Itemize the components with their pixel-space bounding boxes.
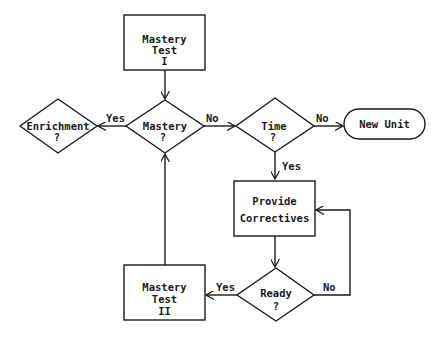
node-mastery-decision: Mastery ?	[126, 100, 204, 153]
node-text-line: ?	[273, 300, 279, 312]
node-text-line: Provide	[252, 195, 296, 207]
edge-label-mastery-yes: Yes	[106, 112, 125, 124]
node-mastery-test-1: Mastery Test I	[124, 15, 205, 70]
node-mastery-test-2: Mastery Test II	[124, 265, 205, 320]
edge-ready-no: No	[314, 210, 350, 295]
node-new-unit-terminal: New Unit	[344, 109, 425, 139]
node-text-line: ?	[160, 131, 166, 143]
edge-label-ready-yes: Yes	[216, 281, 235, 293]
flowchart-canvas: Yes No No Yes No Yes Mastery Test I Mast…	[0, 0, 441, 341]
edge-mastery-yes: Yes	[98, 112, 126, 126]
node-text-line: Correctives	[240, 212, 310, 224]
node-text-line: ?	[270, 131, 276, 143]
node-text-line: Ready	[260, 287, 292, 299]
node-provide-correctives: Provide Correctives	[234, 181, 315, 236]
node-text-line: I	[161, 55, 167, 67]
node-time-decision: Time ?	[236, 98, 314, 152]
node-ready-decision: Ready ?	[237, 268, 314, 321]
edge-ready-yes: Yes	[206, 281, 237, 295]
edge-time-no: No	[314, 112, 343, 126]
node-text-line: II	[158, 305, 171, 317]
node-text-line: New Unit	[359, 118, 410, 130]
node-text-line: Mastery	[142, 281, 187, 293]
node-enrichment-decision: Enrichment ?	[20, 99, 97, 153]
node-text-line: Test	[152, 293, 177, 305]
edge-label-mastery-no: No	[206, 112, 219, 124]
edge-label-time-yes: Yes	[282, 160, 301, 172]
node-text-line: ?	[54, 131, 60, 143]
edge-mastery-no: No	[204, 112, 235, 126]
edge-time-yes: Yes	[275, 152, 301, 179]
edge-label-time-no: No	[316, 112, 329, 124]
edge-label-ready-no: No	[323, 281, 336, 293]
